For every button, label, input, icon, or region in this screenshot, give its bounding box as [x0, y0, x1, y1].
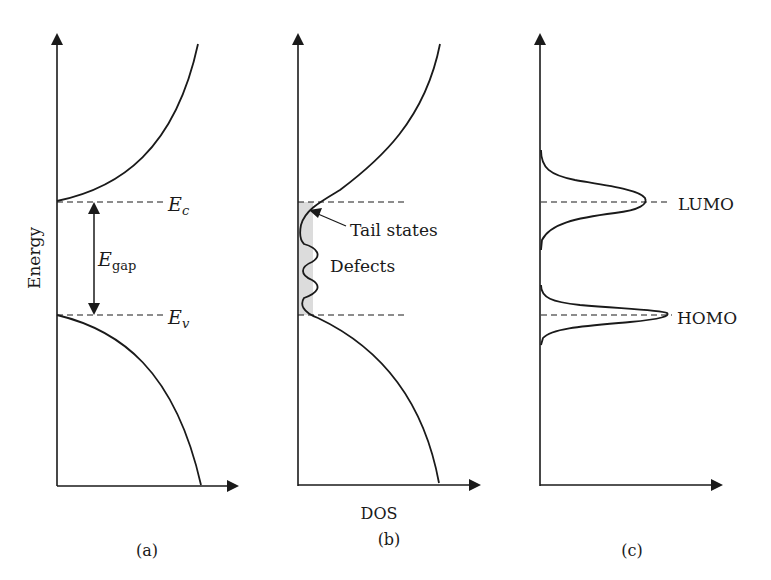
panel-b-tail-pointer — [318, 214, 346, 226]
lumo-peak-curve — [541, 150, 646, 250]
panel-b-y-axis-arrow-icon — [292, 33, 304, 45]
dos-axis-label: DOS — [361, 504, 398, 523]
panel-c-y-axis-arrow-icon — [534, 33, 546, 45]
panel-a-gap-arrow-down-icon — [88, 303, 100, 315]
panel-a-caption: (a) — [136, 541, 158, 560]
panel-a-y-axis-arrow-icon — [51, 33, 63, 45]
tail-states-label: Tail states — [350, 220, 438, 240]
panel-a: Ec Ev Egap (a) Energy — [24, 33, 239, 560]
panel-a-valence-band-curve — [57, 315, 201, 485]
panel-b: Tail states Defects DOS (b) — [292, 33, 481, 549]
lumo-label: LUMO — [678, 194, 734, 214]
panel-a-conduction-band-curve — [57, 44, 198, 201]
panel-a-ev-label: Ev — [167, 306, 190, 331]
homo-label: HOMO — [677, 308, 737, 328]
panel-c-x-axis-arrow-icon — [711, 479, 723, 491]
panel-a-gap-label: Egap — [97, 248, 136, 273]
panel-a-x-axis-arrow-icon — [227, 480, 239, 492]
dos-diagram: Ec Ev Egap (a) Energy Tail states Defect… — [0, 0, 771, 580]
panel-c-caption: (c) — [621, 541, 642, 560]
panel-c: LUMO HOMO (c) — [534, 33, 737, 560]
panel-a-gap-arrow-up-icon — [88, 202, 100, 214]
energy-axis-label: Energy — [24, 227, 44, 289]
panel-b-caption: (b) — [378, 530, 401, 549]
panel-a-ec-label: Ec — [167, 193, 190, 218]
defects-label: Defects — [330, 256, 395, 276]
panel-b-x-axis-arrow-icon — [469, 479, 481, 491]
